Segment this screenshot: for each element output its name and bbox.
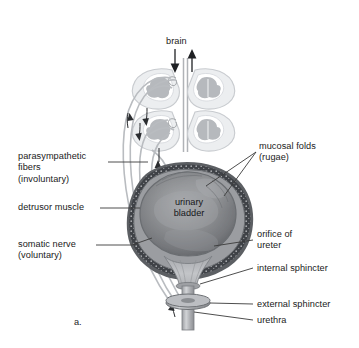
label-urethra: urethra (257, 315, 286, 326)
label-internal-sphincter: internal sphincter (257, 263, 328, 274)
label-somatic-nerve: somatic nerve (voluntary) (18, 239, 76, 262)
leader-external-sphincter (210, 303, 253, 304)
label-brain: brain (166, 36, 187, 47)
label-orifice-of-ureter: orifice of ureter (257, 229, 292, 252)
label-urinary-bladder: urinary bladder (160, 197, 218, 220)
arrow-up-icon (188, 49, 197, 72)
label-detrusor-muscle: detrusor muscle (18, 202, 84, 213)
spinal-tract (184, 58, 188, 152)
label-mucosal-folds: mucosal folds (rugae) (259, 141, 316, 164)
external-sphincter-shape (166, 294, 210, 310)
arrow-down-icon (171, 49, 180, 73)
label-external-sphincter: external sphincter (257, 299, 330, 310)
label-parasympathetic-fibers: parasympathetic fibers (involuntary) (18, 151, 86, 185)
panel-label: a. (74, 317, 82, 327)
anatomical-figure: brain parasympathetic fibers (involuntar… (0, 0, 359, 348)
leader-urethra (194, 312, 253, 320)
